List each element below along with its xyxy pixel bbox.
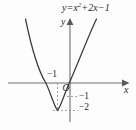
y-tick-label-neg2: −2 <box>79 103 89 113</box>
y-axis-arrowhead <box>67 18 74 25</box>
graph-canvas <box>0 0 136 130</box>
parabola-figure: y=x2+2x−1 y x O −1 −1 −2 <box>0 0 136 130</box>
x-axis-label: x <box>124 85 128 95</box>
y-axis-label: y <box>61 17 65 27</box>
y-tick-label-neg1: −1 <box>79 92 89 102</box>
equation-suffix: +2x−1 <box>81 2 109 13</box>
curve-equation-label: y=x2+2x−1 <box>62 3 110 13</box>
equation-prefix: y=x <box>62 2 78 13</box>
x-tick-label-neg1: −1 <box>47 70 57 80</box>
origin-label: O <box>63 84 70 94</box>
